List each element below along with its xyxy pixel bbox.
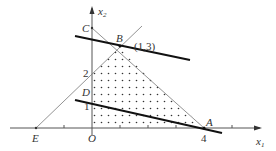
x-axis-label: x1: [255, 135, 264, 149]
point-b-coord: (1,3): [134, 40, 155, 53]
y-axis-label: x2: [97, 5, 107, 19]
point-c-label: C: [82, 22, 90, 34]
point-d-label: D: [81, 86, 90, 98]
lp-feasible-region-diagram: x2 x1 C B (1,3) 2 D 1 A 4 E O: [0, 0, 276, 151]
origin-label: O: [88, 132, 96, 144]
point-b-label: B: [116, 32, 123, 44]
y-axis-arrow-icon: [90, 6, 95, 14]
point-b-marker: [119, 45, 122, 48]
point-c-marker: [91, 27, 93, 29]
y-tick-label-2: 2: [83, 67, 89, 79]
point-e-marker: [35, 127, 37, 129]
point-e-label: E: [31, 132, 39, 144]
x-tick-label-4: 4: [201, 132, 207, 144]
point-a-label: A: [205, 116, 213, 128]
x-axis-arrow-icon: [254, 126, 262, 131]
y-tick-label-1: 1: [84, 100, 90, 112]
